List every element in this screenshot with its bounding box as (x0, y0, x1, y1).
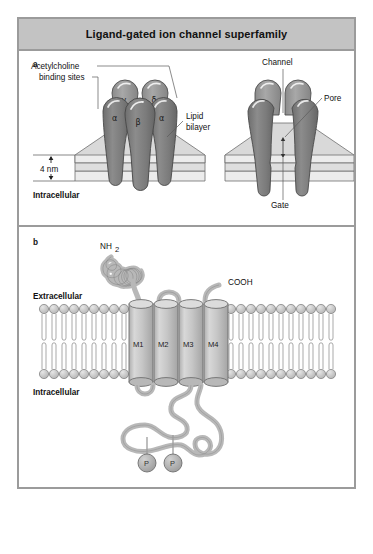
pore-label: Pore (324, 94, 342, 103)
subunit-label-alpha-right: α (159, 114, 164, 123)
receptor-left-diagram: γ δ α α (31, 62, 210, 200)
helix-M2: M2 (154, 300, 178, 387)
n-terminal-chain (103, 257, 142, 301)
nh2-text: NH (100, 242, 112, 251)
figure-title-bar: Ligand-gated ion channel superfamily (19, 19, 354, 51)
gate-label: Gate (271, 201, 289, 210)
nh2-subscript: 2 (115, 245, 119, 254)
helix-label-M3: M3 (183, 340, 194, 349)
extracellular-loops (159, 285, 219, 301)
panel-b-letter: b (33, 238, 38, 247)
scale-bar-4nm: 4 nm (33, 155, 75, 181)
cooh-label: COOH (228, 278, 253, 287)
acetylcholine-leader-left (92, 77, 98, 109)
lipid-bilayer-label-line2: bilayer (186, 123, 210, 132)
intracellular-label-b: Intracellular (33, 388, 80, 397)
phosphate-1: P (138, 437, 156, 472)
lipid-bilayer-right (225, 123, 354, 181)
helix-label-M2: M2 (158, 340, 169, 349)
bilayer-right (216, 304, 335, 378)
scale-label: 4 nm (40, 165, 58, 174)
channel-label: Channel (262, 58, 293, 67)
helix-M1: M1 (129, 300, 153, 387)
transmembrane-helices: M1 M2 M3 (129, 300, 228, 387)
figure-panel: Ligand-gated ion channel superfamily a (17, 17, 356, 489)
panel-b-graphic: b (19, 227, 354, 485)
panel-a: a γ (19, 51, 354, 223)
subunit-label-alpha-left: α (112, 114, 117, 123)
intracellular-chain (123, 385, 222, 455)
panel-a-graphic: a γ (19, 51, 354, 223)
nh2-label: NH 2 (100, 242, 119, 254)
helix-label-M1: M1 (133, 340, 144, 349)
helix-label-M4: M4 (208, 340, 219, 349)
phosphate-2: P (164, 435, 182, 472)
receptor-right-diagram: Channel Pore Gate (225, 58, 354, 210)
extracellular-label-b: Extracellular (33, 292, 83, 301)
subunit-label-beta: β (136, 118, 141, 127)
phosphate-label-2: P (170, 459, 175, 468)
intracellular-label-a: Intracellular (33, 191, 80, 200)
lipid-bilayer-label-line1: Lipid (186, 112, 204, 121)
panel-b: b (19, 225, 354, 487)
helix-M4: M4 (204, 300, 228, 387)
acetylcholine-label-line1: Acetylcholine (31, 62, 80, 71)
figure-title: Ligand-gated ion channel superfamily (86, 28, 288, 40)
acetylcholine-label-line2: binding sites (39, 73, 85, 82)
phosphate-label-1: P (144, 459, 149, 468)
bilayer-left (39, 304, 128, 378)
helix-M3: M3 (179, 300, 203, 387)
